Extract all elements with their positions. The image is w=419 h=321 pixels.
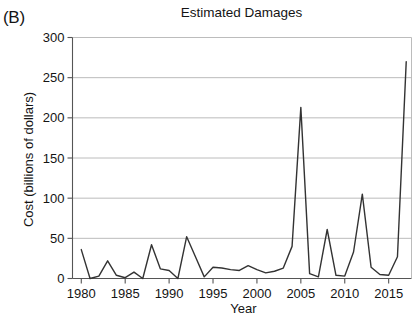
y-tick-labels: 050100150200250300 <box>43 30 65 286</box>
x-tick-label: 1990 <box>155 286 184 301</box>
x-tick-labels: 19801985199019952000200520102015 <box>67 286 403 301</box>
x-tick-label: 2005 <box>286 286 315 301</box>
y-tick-label: 50 <box>50 231 64 246</box>
damages-line-series <box>81 62 406 279</box>
plot-area: 050100150200250300 198019851990199520002… <box>0 0 419 321</box>
y-tick-label: 150 <box>43 151 65 166</box>
x-tick-label: 1985 <box>111 286 140 301</box>
y-tick-label: 300 <box>43 30 65 45</box>
x-tick-label: 2010 <box>330 286 359 301</box>
x-tick-marks <box>81 279 388 284</box>
gridlines <box>73 38 412 279</box>
y-tick-marks <box>68 38 73 279</box>
x-tick-label: 2015 <box>374 286 403 301</box>
x-tick-label: 1995 <box>199 286 228 301</box>
x-tick-label: 1980 <box>67 286 96 301</box>
y-tick-label: 200 <box>43 110 65 125</box>
y-tick-label: 0 <box>57 271 64 286</box>
y-tick-label: 100 <box>43 191 65 206</box>
y-tick-label: 250 <box>43 70 65 85</box>
x-tick-label: 2000 <box>242 286 271 301</box>
chart-figure: (B) Estimated Damages Cost (billions of … <box>0 0 419 321</box>
